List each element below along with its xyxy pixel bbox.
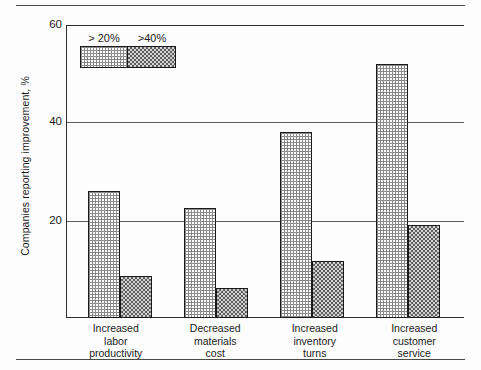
legend-label-gt40: >40% — [128, 32, 176, 44]
legend-swatch-gt40 — [128, 47, 175, 67]
category-label-inventory-turns: Increased inventory turns — [265, 322, 365, 362]
category-label-materials-cost: Decreased materials cost — [166, 322, 266, 362]
category-label-customer-service: Increased customer service — [365, 322, 465, 362]
legend-labels: > 20% >40% — [80, 32, 176, 44]
bar-customer-service-gt40 — [408, 225, 440, 318]
chart-figure: 60 40 20 Companies reporting improvement… — [0, 0, 481, 370]
y-axis-title: Companies reporting improvement, % — [19, 26, 31, 306]
legend: > 20% >40% — [80, 32, 176, 68]
bar-labor-productivity-gt20 — [88, 191, 120, 318]
bar-labor-productivity-gt40 — [120, 276, 152, 318]
bar-customer-service-gt20 — [376, 64, 408, 318]
category-label-labor-productivity: Increased labor productivity — [66, 322, 166, 362]
x-axis-category-labels: Increased labor productivity Decreased m… — [66, 322, 464, 362]
legend-swatch-gt20 — [81, 47, 128, 67]
legend-label-gt20: > 20% — [80, 32, 128, 44]
y-tick-60: 60 — [36, 25, 62, 26]
legend-swatches — [80, 46, 176, 68]
bar-inventory-turns-gt40 — [312, 261, 344, 318]
y-tick-20: 20 — [36, 221, 62, 222]
bar-inventory-turns-gt20 — [280, 132, 312, 318]
y-tick-40: 40 — [36, 122, 62, 123]
bar-materials-cost-gt20 — [184, 208, 216, 318]
bars-layer — [66, 25, 464, 318]
top-divider-rule — [16, 5, 465, 6]
bar-materials-cost-gt40 — [216, 288, 248, 318]
